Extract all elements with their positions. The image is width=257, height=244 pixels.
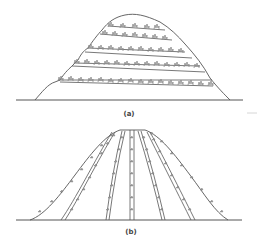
- row-lines: [61, 130, 195, 220]
- panel-a-label: (a): [123, 110, 134, 118]
- diagram-canvas: [0, 0, 257, 244]
- hill-outline-b: [30, 130, 228, 220]
- panel-b-row-hill: [16, 130, 242, 220]
- panel-a-terraced-hill: [16, 14, 243, 100]
- panel-b-label: (b): [125, 228, 136, 236]
- plant-marks-b: [38, 132, 223, 212]
